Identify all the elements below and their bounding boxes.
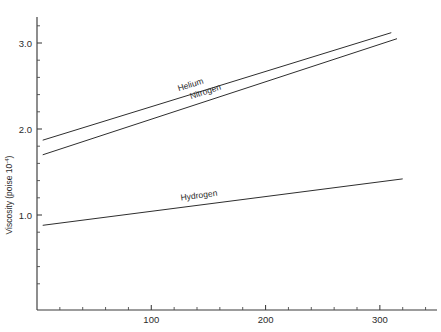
y-tick-label: 2.0 xyxy=(19,124,32,135)
y-tick-label: 1.0 xyxy=(19,210,32,221)
x-tick-label: 300 xyxy=(372,314,388,325)
x-axis-tick-labels: 100200300 xyxy=(143,314,387,325)
viscosity-vs-temperature-chart: 1.02.03.0 100200300 HeliumNitrogenHydrog… xyxy=(0,0,441,332)
y-tick-label: 3.0 xyxy=(19,38,32,49)
series-line-hydrogen xyxy=(43,179,403,225)
data-series-labels: HeliumNitrogenHydrogen xyxy=(176,76,222,203)
y-axis-tick-labels: 1.02.03.0 xyxy=(19,38,32,221)
x-tick-label: 200 xyxy=(258,314,274,325)
data-series-lines xyxy=(43,33,403,226)
x-tick-label: 100 xyxy=(143,314,159,325)
y-axis-ticks xyxy=(37,26,42,284)
series-label-hydrogen: Hydrogen xyxy=(180,188,218,203)
y-axis-title: Viscosity (poise 10-4) xyxy=(4,155,14,234)
axes xyxy=(37,17,437,310)
chart-figure: 1.02.03.0 100200300 HeliumNitrogenHydrog… xyxy=(0,0,441,332)
x-axis-ticks xyxy=(60,305,426,310)
series-line-nitrogen xyxy=(43,39,397,155)
